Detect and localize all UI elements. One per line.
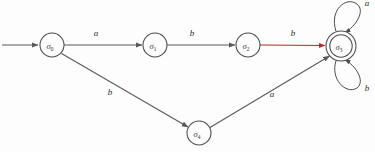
- transition-label-s1-s2: b: [190, 28, 195, 38]
- transition-label-s2-s3: b: [291, 28, 296, 38]
- self-loop-top-s3: [334, 2, 360, 33]
- transition-s2-s3: [260, 45, 325, 46]
- self-loop-label-top-s3: a: [365, 0, 370, 8]
- transition-label-s0-s4: b: [108, 87, 113, 97]
- self-loop-bottom-s3: [335, 60, 361, 90]
- transition-label-s4-s3: a: [270, 89, 275, 99]
- transition-s0-s4: [62, 54, 189, 128]
- automaton-diagram-canvas: σ0 σ1 σ2 σ3 σ4 a b b b a a b: [0, 0, 375, 152]
- self-loop-label-bottom-s3: b: [365, 83, 370, 93]
- automaton-svg: σ0 σ1 σ2 σ3 σ4 a b b b a a b: [0, 0, 375, 152]
- transition-label-s0-s1: a: [94, 28, 99, 38]
